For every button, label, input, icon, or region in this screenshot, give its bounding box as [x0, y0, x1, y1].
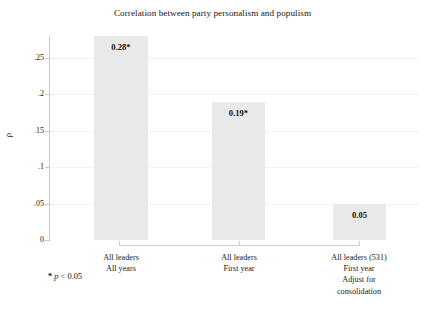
- bar-all-leaders-first-year-adjusted[interactable]: 0.05: [333, 204, 386, 240]
- y-tick-label-0: 0: [4, 236, 44, 244]
- x-category-label-3-line-2: First year: [294, 263, 424, 274]
- x-category-label-3-line-3: Adjust for: [294, 274, 424, 285]
- bar-value-label-2: 0.19*: [212, 108, 265, 118]
- footnote-threshold: < 0.05: [61, 272, 82, 281]
- significance-footnote: * p < 0.05: [48, 272, 82, 281]
- x-axis-tick-right: [359, 241, 360, 246]
- footnote-asterisk: *: [48, 272, 52, 281]
- bar-value-label-1: 0.28*: [94, 42, 148, 52]
- y-tick-label-0.05: .05: [4, 200, 44, 208]
- chart-figure: Correlation between party personalism an…: [0, 0, 425, 322]
- y-tick-mark-0: [45, 240, 49, 241]
- bar-all-leaders-all-years[interactable]: 0.28*: [94, 36, 148, 240]
- y-tick-mark-0.20: [45, 94, 49, 95]
- x-category-label-2: All leaders First year: [174, 252, 304, 274]
- x-category-label-3-line-1: All leaders (531): [294, 252, 424, 263]
- y-tick-mark-0.15: [45, 131, 49, 132]
- y-tick-label-0.20: .2: [4, 90, 44, 98]
- y-axis-line: [49, 36, 50, 241]
- y-tick-label-0.25: .25: [4, 54, 44, 62]
- x-category-label-2-line-1: All leaders: [174, 252, 304, 263]
- y-axis-title: ρ: [3, 133, 13, 137]
- footnote-p-symbol: p: [54, 272, 58, 281]
- x-axis-tick-center: [239, 241, 240, 246]
- bar-value-label-3: 0.05: [333, 210, 386, 220]
- y-tick-mark-0.25: [45, 58, 49, 59]
- y-tick-label-0.10: .1: [4, 163, 44, 171]
- x-category-label-2-line-2: First year: [174, 263, 304, 274]
- y-tick-mark-0.05: [45, 204, 49, 205]
- bar-all-leaders-first-year[interactable]: 0.19*: [212, 102, 265, 240]
- x-category-label-3: All leaders (531) First year Adjust for …: [294, 252, 424, 297]
- x-category-label-1-line-1: All leaders: [56, 252, 186, 263]
- x-axis-tick-left: [119, 241, 120, 246]
- x-category-label-3-line-4: consolidation: [294, 286, 424, 297]
- y-tick-mark-0.10: [45, 167, 49, 168]
- chart-title: Correlation between party personalism an…: [0, 8, 425, 18]
